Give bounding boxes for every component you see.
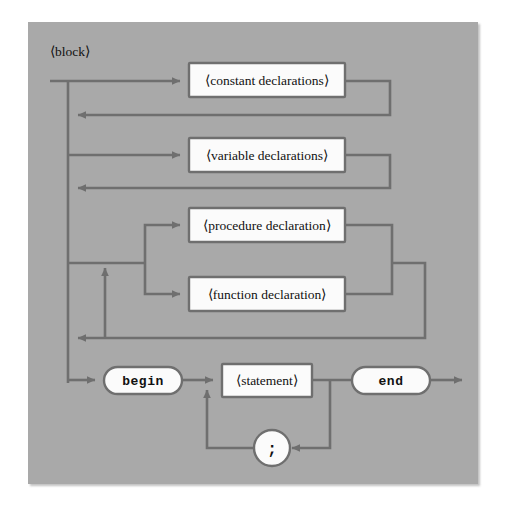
node-end-label: end (379, 374, 404, 389)
node-function-declaration-label: ⟨function declaration⟩ (208, 287, 326, 302)
node-procedure-declaration-label: ⟨procedure declaration⟩ (203, 218, 330, 233)
node-variable-declarations-label: ⟨variable declarations⟩ (206, 148, 328, 163)
railroad-diagram: ⟨constant declarations⟩ ⟨variable declar… (0, 0, 506, 506)
edge-fork-to-procedure (145, 225, 180, 263)
diagram-title: ⟨block⟩ (50, 44, 90, 59)
edge-fork-to-function (145, 263, 180, 294)
edge-procedure-out (345, 225, 392, 263)
edge-semicolon-to-statement (207, 390, 254, 448)
node-statement-label: ⟨statement⟩ (236, 373, 298, 388)
diagram-canvas: ⟨constant declarations⟩ ⟨variable declar… (0, 0, 506, 506)
node-group: ⟨constant declarations⟩ ⟨variable declar… (104, 63, 430, 466)
edge-function-out (345, 263, 392, 294)
node-begin-label: begin (122, 374, 164, 389)
node-constant-declarations-label: ⟨constant declarations⟩ (205, 73, 329, 88)
railroad-svg: ⟨constant declarations⟩ ⟨variable declar… (0, 0, 506, 506)
node-semicolon-label: ; (267, 441, 277, 459)
